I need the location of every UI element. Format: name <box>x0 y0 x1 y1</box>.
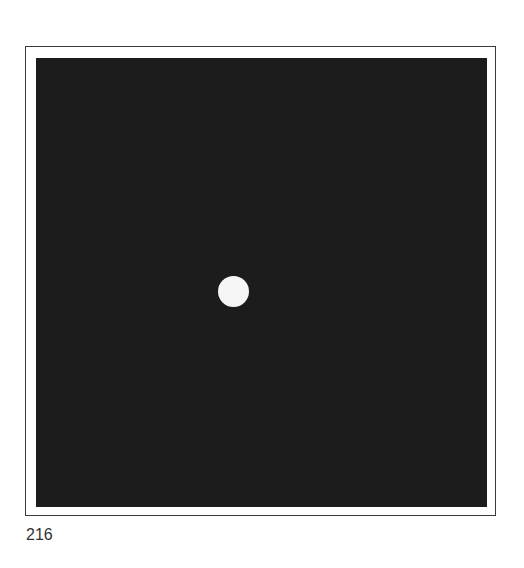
black-square-plate <box>36 58 487 507</box>
white-dot <box>218 276 249 307</box>
page-number: 216 <box>26 526 53 544</box>
figure-frame <box>25 46 496 516</box>
